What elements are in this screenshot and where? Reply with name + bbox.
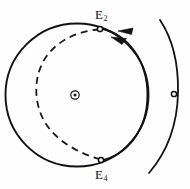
point-right-marker: [171, 91, 176, 96]
label-e4: E4: [95, 168, 107, 183]
label-e2: E2: [95, 8, 107, 23]
point-e4-marker: [98, 157, 103, 162]
figure-container: E2 E4: [0, 0, 190, 189]
geometry-diagram-svg: [0, 0, 190, 189]
label-e2-text: E: [95, 7, 103, 22]
point-e2-marker: [97, 26, 102, 31]
direction-arrow-outer: [118, 28, 133, 35]
dashed-circle-inner: [36, 30, 100, 160]
direction-arrow-inner: [111, 37, 127, 45]
label-e4-subscript: 4: [103, 174, 108, 183]
solid-circle-offset: [101, 29, 148, 161]
label-e2-subscript: 2: [103, 14, 108, 23]
solid-circle-main: [6, 24, 149, 167]
center-point-dot-icon: [74, 94, 77, 97]
label-e4-text: E: [95, 167, 103, 182]
